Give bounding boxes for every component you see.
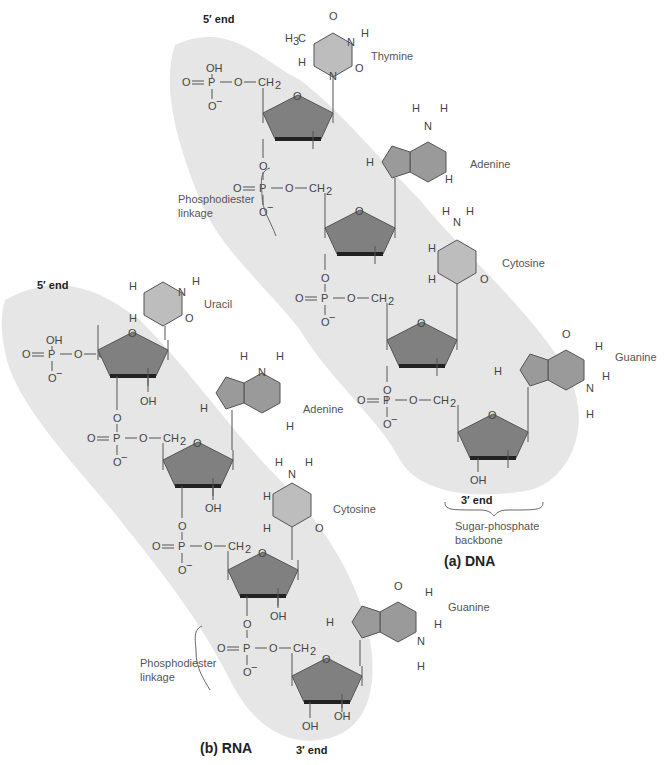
nucleic-acid-diagram: O P O O CH 2 O − OH — [0, 0, 667, 765]
svg-text:H: H — [445, 173, 453, 185]
svg-text:N: N — [288, 468, 296, 480]
svg-text:N: N — [453, 216, 461, 228]
diagram-drawing: O P O O CH 2 O − OH — [0, 0, 667, 765]
rna-linkage-line1: Phosphodiester — [140, 656, 216, 670]
svg-text:H: H — [298, 56, 306, 68]
svg-text:O: O — [562, 328, 571, 340]
svg-text:H: H — [428, 273, 436, 285]
svg-text:H: H — [240, 350, 248, 362]
sugar-phosphate-backbone-label: Sugar-phosphate backbone — [455, 519, 539, 547]
svg-text:H: H — [417, 660, 425, 672]
svg-text:H: H — [129, 280, 137, 292]
svg-text:H: H — [285, 32, 293, 44]
svg-text:O: O — [178, 520, 187, 532]
svg-text:H: H — [276, 350, 284, 362]
svg-text:H: H — [494, 365, 502, 377]
svg-text:N: N — [347, 36, 355, 48]
rna-linkage-line2: linkage — [140, 670, 216, 684]
dna-base-thymine-label: Thymine — [371, 50, 413, 62]
svg-text:H: H — [200, 402, 208, 414]
svg-text:O: O — [480, 273, 489, 285]
rna-base-guanine-label: Guanine — [448, 601, 490, 613]
svg-text:N: N — [417, 635, 425, 647]
dna-base-guanine-label: Guanine — [615, 351, 657, 363]
dna-base-cytosine-label: Cytosine — [502, 257, 545, 269]
svg-text:OH: OH — [302, 720, 319, 732]
rna-base-adenine-label: Adenine — [303, 403, 343, 415]
svg-text:H: H — [442, 205, 450, 217]
rna-base-cytosine-label: Cytosine — [333, 503, 376, 515]
rna-3-prime-end-label: 3′ end — [296, 744, 327, 756]
svg-text:OH: OH — [46, 334, 63, 346]
svg-text:OH: OH — [270, 610, 287, 622]
svg-text:OH: OH — [334, 710, 351, 722]
svg-text:H: H — [595, 340, 603, 352]
backbone-line1: Sugar-phosphate — [455, 519, 539, 533]
svg-text:H: H — [326, 616, 334, 628]
svg-text:H: H — [305, 456, 313, 468]
svg-text:OH: OH — [470, 474, 487, 486]
svg-text:H: H — [192, 275, 200, 287]
dna-panel-caption: (a) DNA — [444, 553, 495, 569]
svg-text:H: H — [263, 522, 271, 534]
svg-text:O: O — [185, 312, 194, 324]
svg-text:OH: OH — [140, 395, 157, 407]
svg-text:H: H — [286, 420, 294, 432]
svg-text:H: H — [586, 408, 594, 420]
svg-text:N: N — [329, 70, 337, 82]
svg-text:N: N — [424, 120, 432, 132]
svg-text:H: H — [366, 156, 374, 168]
svg-text:H: H — [425, 586, 433, 598]
svg-text:H: H — [602, 370, 610, 382]
dna-5-prime-end-label: 5′ end — [203, 13, 234, 25]
rna-base-uracil-label: Uracil — [204, 298, 232, 310]
svg-text:C: C — [298, 32, 306, 44]
svg-text:OH: OH — [205, 502, 222, 514]
svg-text:O: O — [329, 10, 338, 22]
dna-linkage-line2: linkage — [178, 206, 254, 220]
svg-text:O: O — [394, 580, 403, 592]
svg-text:O: O — [355, 62, 364, 74]
svg-text:H: H — [263, 490, 271, 502]
rna-panel-caption: (b) RNA — [200, 740, 252, 756]
svg-text:H: H — [428, 242, 436, 254]
dna-base-adenine-label: Adenine — [470, 158, 510, 170]
dna-phosphodiester-linkage-label: Phosphodiester linkage — [178, 192, 254, 220]
svg-text:H: H — [129, 312, 137, 324]
backbone-line2: backbone — [455, 533, 539, 547]
svg-text:H: H — [412, 102, 420, 114]
svg-text:OH: OH — [206, 62, 223, 74]
svg-text:N: N — [178, 286, 186, 298]
svg-text:H: H — [466, 205, 474, 217]
svg-text:H: H — [434, 618, 442, 630]
svg-text:O: O — [243, 618, 252, 630]
rna-5-prime-end-label: 5′ end — [37, 279, 68, 291]
svg-text:H: H — [440, 102, 448, 114]
svg-text:H: H — [361, 27, 369, 39]
svg-text:H: H — [275, 456, 283, 468]
rna-phosphodiester-linkage-label: Phosphodiester linkage — [140, 656, 216, 684]
svg-text:N: N — [258, 366, 266, 378]
svg-text:O: O — [113, 412, 122, 424]
svg-text:N: N — [586, 382, 594, 394]
svg-text:O: O — [315, 522, 324, 534]
dna-linkage-line1: Phosphodiester — [178, 192, 254, 206]
svg-text:O: O — [321, 272, 330, 284]
dna-3-prime-end-label: 3′ end — [461, 494, 492, 506]
